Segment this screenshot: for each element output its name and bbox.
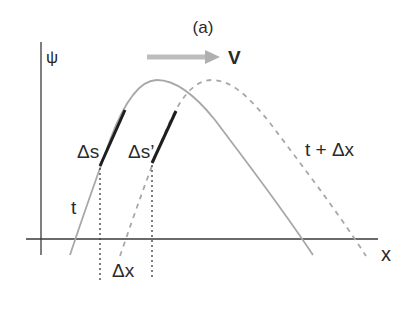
x-axis-label: x [381, 243, 391, 265]
panel-label: (a) [193, 18, 214, 37]
segment-ds-prime [152, 111, 176, 163]
segment-ds-prime-label: Δs’ [128, 141, 154, 162]
wave-curve-t [70, 80, 313, 255]
shift-dx-label: Δx [112, 260, 135, 281]
wave-diagram: (a) ψ x V Δs Δs’ t Δx t + Δx [0, 0, 415, 314]
segment-ds-label: Δs [77, 141, 99, 162]
wave-curve-t-plus-dx [120, 80, 366, 256]
y-axis-label: ψ [46, 48, 58, 67]
segment-ds [100, 110, 125, 166]
velocity-arrow-icon [147, 50, 220, 64]
velocity-label: V [228, 47, 241, 68]
curve-t-dx-label: t + Δx [305, 139, 355, 160]
diagram-svg: (a) ψ x V Δs Δs’ t Δx t + Δx [0, 0, 415, 314]
curve-t-label: t [71, 197, 77, 218]
